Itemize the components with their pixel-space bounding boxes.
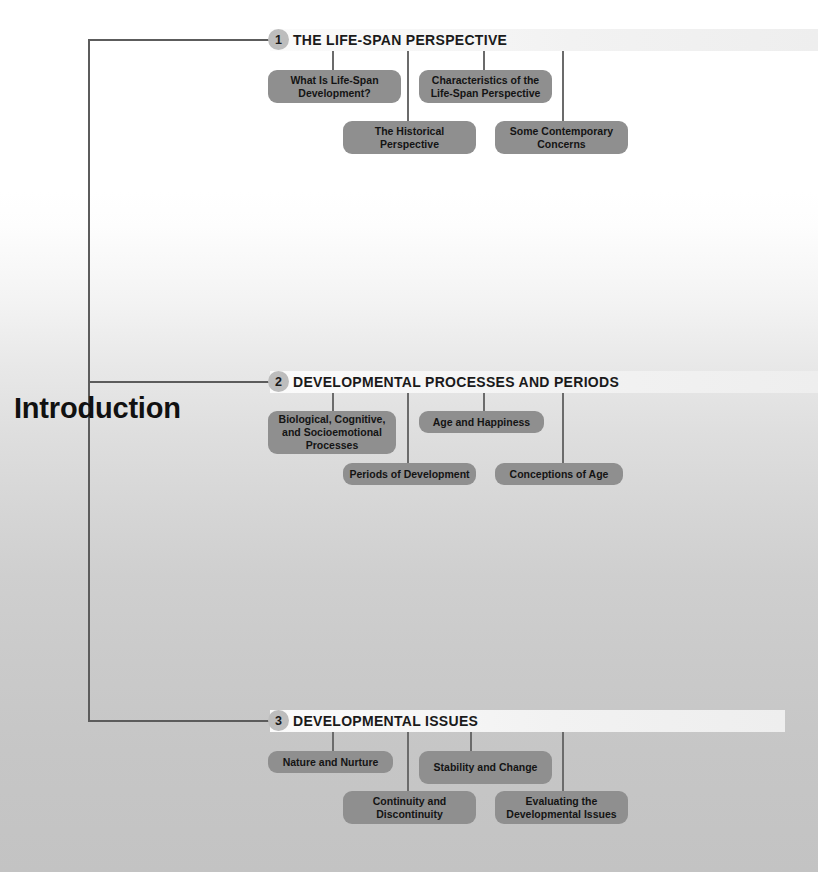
chapter-outline-diagram: Introduction 1 THE LIFE-SPAN PERSPECTIVE… xyxy=(0,0,818,872)
topic-box[interactable]: Continuity and Discontinuity xyxy=(343,791,476,824)
topic-box[interactable]: Some Contemporary Concerns xyxy=(495,121,628,154)
connector-2-b xyxy=(407,393,409,464)
section-number-2: 2 xyxy=(268,371,289,392)
section-title-2: DEVELOPMENTAL PROCESSES AND PERIODS xyxy=(293,371,619,393)
trunk-branch-section-1 xyxy=(88,39,274,41)
page-title: Introduction xyxy=(14,392,181,425)
topic-box[interactable]: Conceptions of Age xyxy=(495,463,623,485)
connector-3-c xyxy=(470,732,472,751)
connector-3-d xyxy=(562,732,564,791)
connector-3-b xyxy=(407,732,409,791)
connector-2-a xyxy=(332,393,334,412)
connector-1-b xyxy=(407,51,409,122)
trunk-branch-section-2 xyxy=(88,381,274,383)
trunk-branch-section-3 xyxy=(88,720,274,722)
topic-box[interactable]: Nature and Nurture xyxy=(268,751,393,773)
connector-2-c xyxy=(483,393,485,412)
connector-1-a xyxy=(332,51,334,71)
section-number-3: 3 xyxy=(268,710,289,731)
connector-1-d xyxy=(562,51,564,122)
section-title-1: THE LIFE-SPAN PERSPECTIVE xyxy=(293,29,507,51)
topic-box[interactable]: Age and Happiness xyxy=(419,411,544,433)
section-title-3: DEVELOPMENTAL ISSUES xyxy=(293,710,478,732)
topic-box[interactable]: What Is Life-Span Development? xyxy=(268,70,401,103)
topic-box[interactable]: Evaluating the Developmental Issues xyxy=(495,791,628,824)
section-number-1: 1 xyxy=(268,29,289,50)
topic-box[interactable]: Periods of Development xyxy=(343,463,476,485)
topic-box[interactable]: Stability and Change xyxy=(419,751,552,784)
topic-box[interactable]: Biological, Cognitive, and Socioemotiona… xyxy=(268,411,396,454)
topic-box[interactable]: The Historical Perspective xyxy=(343,121,476,154)
topic-box[interactable]: Characteristics of the Life-Span Perspec… xyxy=(419,70,552,103)
connector-3-a xyxy=(332,732,334,751)
connector-2-d xyxy=(562,393,564,464)
connector-1-c xyxy=(483,51,485,71)
